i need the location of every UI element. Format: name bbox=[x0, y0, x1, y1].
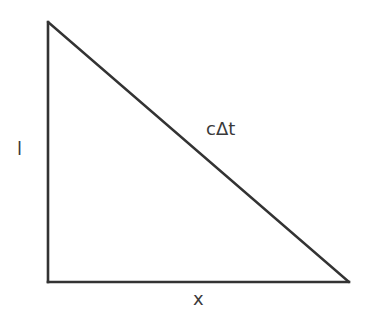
horizontal-leg-label: x bbox=[193, 290, 204, 308]
hypotenuse-line bbox=[48, 22, 349, 282]
hypotenuse-label: cΔt bbox=[206, 120, 235, 138]
vertical-leg-label: l bbox=[17, 140, 22, 158]
right-triangle-diagram bbox=[0, 0, 370, 327]
